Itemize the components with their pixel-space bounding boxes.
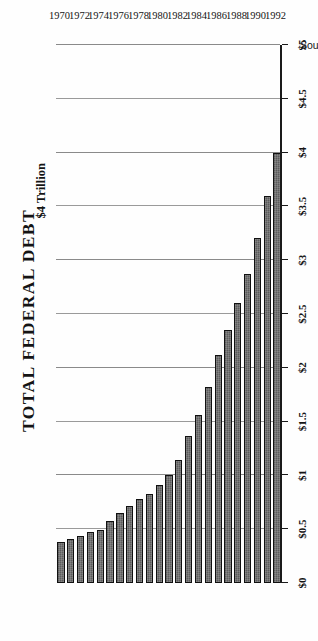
category-label: 1978 — [128, 10, 149, 21]
bar — [165, 475, 172, 583]
value-axis-caption: Trillions of Dollars — [316, 45, 318, 583]
axis-tick — [282, 367, 288, 368]
axis-tick — [282, 474, 288, 475]
axis-tick-label: $3 — [296, 255, 308, 266]
axis-tick-label: $3.5 — [296, 197, 308, 216]
bar — [136, 499, 143, 583]
axis-tick — [282, 98, 288, 99]
bar — [175, 460, 182, 583]
bar — [185, 436, 192, 583]
bar — [87, 532, 94, 583]
axis-tick-label: $0.5 — [296, 520, 308, 539]
bar — [244, 274, 251, 583]
bar — [156, 485, 163, 583]
category-label: 1982 — [167, 10, 188, 21]
axis-tick — [282, 44, 288, 45]
source-note: Source: OMB — [300, 39, 318, 51]
category-label: 1980 — [147, 10, 168, 21]
bar — [106, 521, 113, 583]
axis-tick — [282, 421, 288, 422]
chart-title: TOTAL FEDERAL DEBT — [18, 0, 39, 641]
bar — [195, 415, 202, 583]
bar — [215, 355, 222, 583]
axis-tick-label: $2.5 — [296, 304, 308, 323]
category-label: 1970 — [49, 10, 70, 21]
category-label: 1976 — [108, 10, 129, 21]
bars-layer — [56, 45, 282, 583]
bar — [264, 196, 271, 583]
category-label: 1986 — [206, 10, 227, 21]
category-label: 1992 — [265, 10, 286, 21]
axis-tick — [282, 582, 288, 583]
bar — [205, 387, 212, 583]
axis-tick-label: $4 — [296, 147, 308, 158]
four-trillion-callout: $4 Trillion — [34, 163, 49, 218]
bar — [97, 530, 104, 583]
axis-tick — [282, 313, 288, 314]
axis-tick — [282, 205, 288, 206]
bar — [67, 539, 74, 583]
axis-tick-label: $1.5 — [296, 412, 308, 431]
rotated-chart-wrapper: TOTAL FEDERAL DEBT $0$0.5$1$1.5$2$2.5$3$… — [0, 0, 318, 641]
bar — [146, 494, 153, 583]
axis-tick-label: $4.5 — [296, 89, 308, 108]
plot-area: $0$0.5$1$1.5$2$2.5$3$3.5$4$4.5$5 — [56, 45, 282, 583]
axis-tick — [282, 528, 288, 529]
axis-tick-label: $1 — [296, 470, 308, 481]
bar — [234, 303, 241, 583]
bar — [254, 238, 261, 583]
chart-page: TOTAL FEDERAL DEBT $0$0.5$1$1.5$2$2.5$3$… — [0, 0, 318, 641]
axis-tick-label: $0 — [296, 578, 308, 589]
value-axis-line — [280, 45, 282, 583]
category-label: 1988 — [226, 10, 247, 21]
bar — [224, 330, 231, 583]
category-label: 1990 — [245, 10, 266, 21]
axis-tick — [282, 152, 288, 153]
category-label: 1984 — [186, 10, 207, 21]
bar — [116, 513, 123, 583]
axis-tick-label: $2 — [296, 362, 308, 373]
chart-canvas: TOTAL FEDERAL DEBT $0$0.5$1$1.5$2$2.5$3$… — [0, 0, 318, 641]
bar — [126, 506, 133, 583]
category-label: 1972 — [69, 10, 90, 21]
bar — [77, 536, 84, 583]
bar — [57, 542, 64, 583]
category-label: 1974 — [88, 10, 109, 21]
axis-tick — [282, 259, 288, 260]
